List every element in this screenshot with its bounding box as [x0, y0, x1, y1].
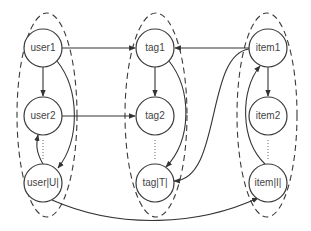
node-label: item2: [256, 110, 281, 121]
node-label: item|I|: [255, 177, 282, 188]
node-item2: item2: [249, 97, 287, 135]
node-tag1: tag1: [136, 29, 174, 67]
node-label: item1: [256, 42, 281, 53]
edge-userU-user2: [37, 135, 43, 164]
node-label: tag|T|: [142, 177, 167, 188]
node-user1: user1: [24, 29, 62, 67]
node-tagT: tag|T|: [136, 164, 174, 202]
node-label: user2: [30, 110, 55, 121]
node-label: tag1: [145, 42, 165, 53]
node-label: user|U|: [27, 177, 59, 188]
node-user2: user2: [24, 97, 62, 135]
node-label: tag2: [145, 110, 165, 121]
node-userU: user|U|: [24, 164, 62, 202]
node-itemI: item|I|: [249, 164, 287, 202]
edge-item1-tagT: [174, 49, 249, 181]
bipartite-graph-diagram: user1 user2 user|U| tag1 tag2 tag|T| ite…: [0, 0, 311, 231]
node-item1: item1: [249, 29, 287, 67]
node-tag2: tag2: [136, 97, 174, 135]
node-label: user1: [30, 42, 55, 53]
